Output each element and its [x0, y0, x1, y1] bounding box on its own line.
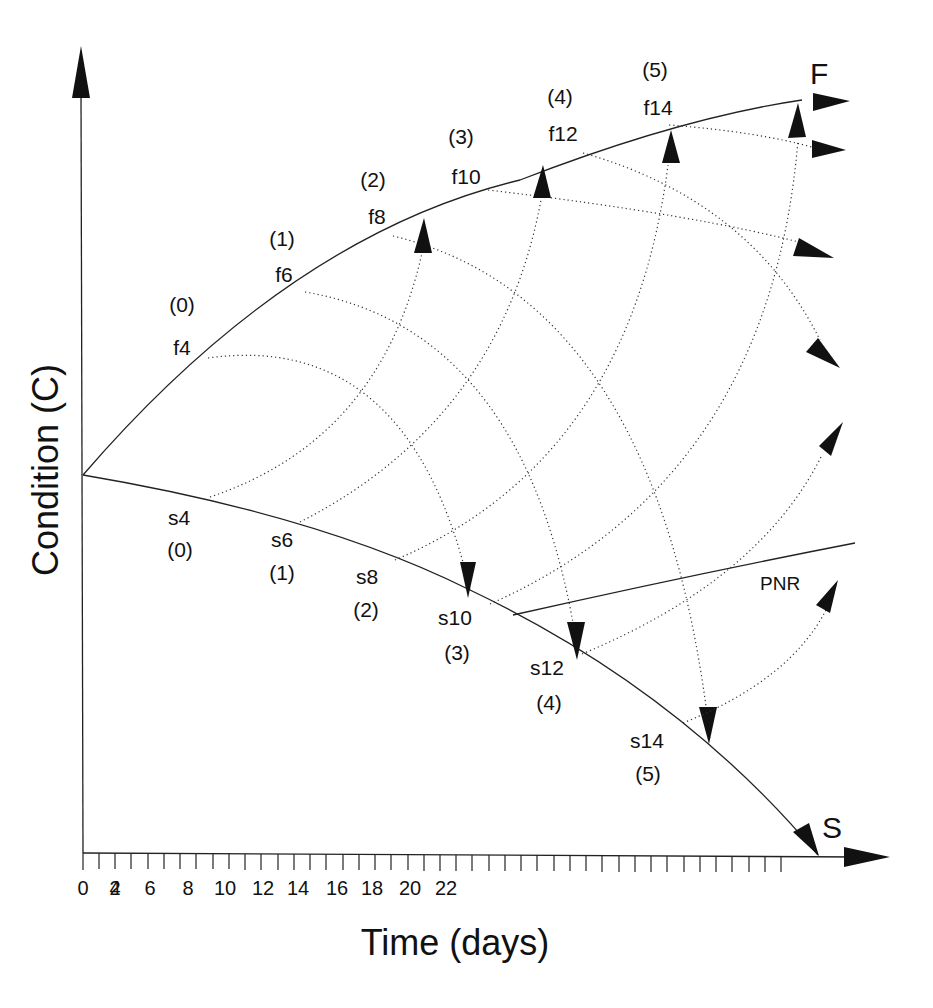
f4-stage: (0): [169, 293, 195, 316]
PNR-label: PNR: [760, 573, 800, 594]
s14-stage: (5): [635, 762, 661, 785]
f8-stage: (2): [360, 168, 386, 191]
x-tick-label: 22: [435, 877, 457, 899]
x-tick-label: 20: [399, 877, 421, 899]
up-arrow-icon: [414, 218, 432, 253]
x-tick-label: 16: [326, 877, 348, 899]
s10-label: s10: [438, 606, 472, 629]
x-tick-label: 12: [252, 877, 274, 899]
f10-label: f10: [451, 165, 480, 188]
right-arrow-icon: [793, 238, 834, 258]
up-right-arrow-icon: [816, 580, 838, 613]
x-tick-labels: 0 2 4 6 8 10 12 14 16 18 20 22: [77, 877, 457, 899]
up-arrow-icon: [788, 103, 806, 138]
x-tick-label: 14: [287, 877, 309, 899]
F-end-arrow-icon: [813, 93, 850, 111]
S-label: S: [822, 811, 842, 844]
diagram-canvas: 0 2 4 6 8 10 12 14 16 18 20 22 Condition…: [0, 0, 933, 1008]
up-right-arrow-icon: [819, 422, 843, 456]
f12-stage: (4): [547, 85, 573, 108]
x-tick-label: 8: [182, 877, 193, 899]
s12-stage: (4): [536, 691, 562, 714]
s10-stage: (3): [444, 641, 470, 664]
right-arrow-icon: [812, 140, 846, 158]
y-axis-arrow-icon: [72, 46, 90, 98]
F-label: F: [810, 57, 828, 90]
f6-stage: (1): [269, 227, 295, 250]
s8-stage: (2): [353, 598, 379, 621]
y-axis: [72, 46, 90, 853]
f14-stage: (5): [642, 58, 668, 81]
f-point-labels: (0) f4 (1) f6 (2) f8 (3) f10 (4) f12 (5)…: [169, 58, 673, 359]
f4-label: f4: [173, 336, 191, 359]
right-arrow-icon: [806, 338, 840, 368]
f-to-s-transitions: [208, 125, 846, 744]
down-arrow-icon: [460, 562, 476, 598]
f14-label: f14: [643, 96, 673, 119]
x-tick-label: 4: [109, 877, 120, 899]
f6-label: f6: [275, 263, 293, 286]
x-axis: [83, 847, 890, 872]
s14-label: s14: [630, 729, 664, 752]
x-axis-title: Time (days): [361, 922, 550, 963]
x-tick-label: 18: [361, 877, 383, 899]
x-tick-label: 10: [214, 877, 236, 899]
up-arrow-icon: [662, 130, 680, 163]
x-tick-label: 6: [144, 877, 155, 899]
s-to-f-transitions: [210, 103, 843, 723]
s8-label: s8: [356, 565, 378, 588]
x-tick-label: 0: [77, 877, 88, 899]
fast-curve-F: [83, 93, 850, 475]
x-axis-arrow-icon: [844, 847, 890, 867]
s4-label: s4: [168, 506, 191, 529]
f8-label: f8: [368, 205, 386, 228]
s6-label: s6: [271, 528, 293, 551]
f10-stage: (3): [448, 125, 474, 148]
slow-curve-S: [83, 475, 819, 856]
s6-stage: (1): [269, 561, 295, 584]
f12-label: f12: [548, 122, 577, 145]
y-axis-title: Condition (C): [25, 364, 66, 576]
s4-stage: (0): [167, 538, 193, 561]
S-end-arrow-icon: [793, 823, 819, 856]
s12-label: s12: [530, 656, 564, 679]
